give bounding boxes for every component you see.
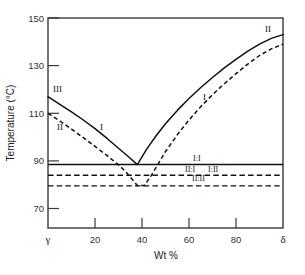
x-axis-title: Wt % — [154, 250, 178, 261]
x-tick-label-60: 60 — [184, 234, 195, 245]
chart-canvas: 150 130 110 90 70 γ 20 40 60 80 δ Wt % T… — [0, 0, 305, 275]
phase-diagram-figure: 150 130 110 90 70 γ 20 40 60 80 δ Wt % T… — [0, 0, 305, 275]
annotation-label-I-right: I — [203, 92, 206, 102]
annotation-label-i-ii: I:II — [208, 165, 219, 174]
x-tick-label-80: 80 — [231, 234, 242, 245]
y-tick-label-70: 70 — [33, 203, 44, 214]
x-tick-label-20: 20 — [90, 234, 101, 245]
annotation-label-III-left: III — [53, 84, 62, 94]
solid-liquidus — [48, 35, 283, 165]
x-tick-label-40: 40 — [137, 234, 148, 245]
y-tick-label-90: 90 — [33, 155, 44, 166]
annotation-label-ii-i: II:I — [185, 165, 196, 174]
y-axis-title: Temperature (°C) — [5, 85, 16, 162]
x-tick-label-gamma: γ — [45, 233, 51, 245]
annotation-label-II-right: II — [265, 24, 271, 34]
annotation-label-II-left: II — [57, 122, 63, 132]
annotation-label-I-left: I — [100, 122, 103, 132]
x-axis-ticks — [95, 218, 236, 228]
x-tick-label-delta: δ — [280, 233, 285, 245]
y-tick-label-130: 130 — [28, 60, 44, 71]
annotation-label-ii-ii: II:II — [192, 174, 205, 183]
y-tick-label-150: 150 — [28, 13, 44, 24]
y-tick-label-110: 110 — [29, 108, 44, 119]
y-axis-ticks — [48, 18, 59, 209]
annotation-label-i-i: I:I — [193, 154, 201, 163]
